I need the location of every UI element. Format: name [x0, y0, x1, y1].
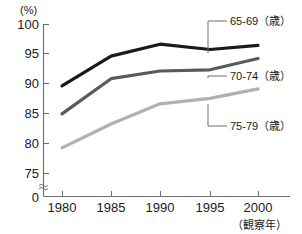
- x-tick-label-1995: 1995: [196, 200, 225, 215]
- series-label-65-69: 65-69（歳）: [230, 15, 291, 27]
- y-axis-unit-label: (%): [20, 4, 37, 16]
- x-tick-label-1985: 1985: [97, 200, 126, 215]
- y-tick-label-85: 85: [25, 106, 39, 121]
- x-tick-label-1990: 1990: [146, 200, 175, 215]
- y-tick-label-95: 95: [25, 46, 39, 61]
- leader-line-75-79: [208, 104, 227, 126]
- x-axis-caption: （観察年）: [232, 218, 287, 231]
- y-tick-label-80: 80: [25, 136, 39, 151]
- line-chart: (%) 100 95 90 85 80 75 0: [0, 0, 302, 234]
- y-tick-label-90: 90: [25, 76, 39, 91]
- series-line-75-79: [62, 89, 258, 148]
- series-label-70-74: 70-74（歳）: [230, 70, 291, 82]
- y-tick-label-100: 100: [17, 17, 39, 32]
- leader-line-70-74: [208, 76, 227, 78]
- y-tick-label-0: 0: [32, 190, 39, 205]
- x-tick-label-2000: 2000: [244, 200, 273, 215]
- chart-container: (%) 100 95 90 85 80 75 0: [0, 0, 302, 234]
- y-axis-ticks: [44, 25, 50, 174]
- x-tick-label-1980: 1980: [48, 200, 77, 215]
- x-axis-ticks: [63, 191, 259, 197]
- y-tick-label-75: 75: [25, 166, 39, 181]
- series-label-75-79: 75-79（歳）: [230, 120, 291, 132]
